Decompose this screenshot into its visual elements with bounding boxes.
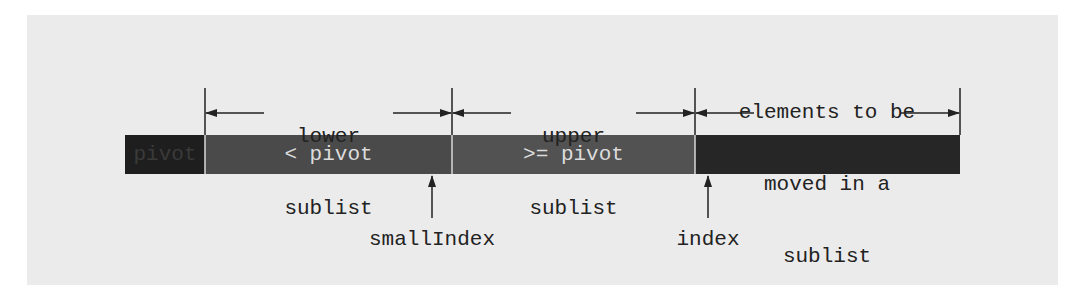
index-label: index (658, 228, 758, 252)
smallIndex-label: smallIndex (352, 228, 512, 252)
lower-sublist-label: lower sublist (264, 77, 393, 245)
pivot-cell-label: pivot (125, 135, 205, 174)
to-move-line-2: moved in a (727, 173, 927, 197)
upper-sublist-line-1: upper (511, 125, 636, 149)
to-move-line-1: elements to be (727, 101, 927, 125)
lower-sublist-line-1: lower (264, 125, 393, 149)
upper-sublist-line-2: sublist (511, 197, 636, 221)
upper-sublist-label: upper sublist (511, 77, 636, 245)
to-move-label: elements to be moved in a sublist (727, 53, 927, 293)
lower-sublist-line-2: sublist (264, 197, 393, 221)
